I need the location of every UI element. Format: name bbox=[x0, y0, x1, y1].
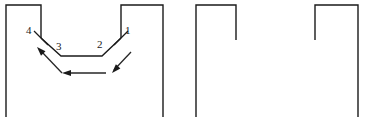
left-die-block bbox=[6, 5, 41, 117]
diagram-canvas: 4 3 2 1 bbox=[0, 0, 366, 117]
point-label-2: 2 bbox=[97, 38, 103, 50]
diagram-svg: 4 3 2 1 bbox=[0, 0, 366, 117]
arrow-bottom-horizontal-head bbox=[62, 70, 71, 76]
point-label-1: 1 bbox=[125, 24, 131, 36]
third-die-block bbox=[315, 5, 358, 117]
v-channel-profile bbox=[41, 38, 121, 56]
point-label-3: 3 bbox=[56, 40, 62, 52]
point-label-4: 4 bbox=[26, 24, 32, 36]
second-die-block bbox=[196, 5, 236, 117]
arrow-inflow-right-head bbox=[112, 64, 120, 73]
right-die-block bbox=[121, 5, 163, 117]
